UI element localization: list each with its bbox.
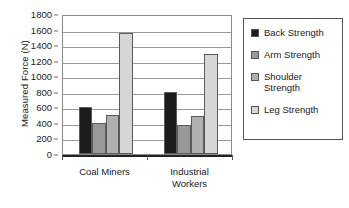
y-axis-tick-label: 1800 — [31, 10, 52, 20]
legend-item[interactable]: Back Strength — [251, 27, 342, 38]
legend-swatch-icon — [251, 73, 259, 81]
y-axis-tick — [54, 139, 58, 140]
legend-item-label: Back Strength — [264, 27, 324, 38]
y-axis-tick — [54, 92, 58, 93]
legend-item-label: Shoulder Strength — [264, 71, 302, 93]
y-axis-tick — [54, 77, 58, 78]
legend-item-label: Arm Strength — [264, 49, 320, 60]
legend-swatch-icon — [251, 106, 259, 114]
legend-item[interactable]: Shoulder Strength — [251, 71, 342, 93]
y-axis-tick-label: 800 — [36, 88, 52, 98]
bar — [79, 107, 93, 154]
y-axis-tick — [54, 108, 58, 109]
x-axis-tick-label: Coal Miners — [62, 166, 147, 178]
bars-layer — [63, 16, 231, 154]
x-axis-tick — [147, 155, 148, 160]
y-axis-tick-label: 1000 — [31, 72, 52, 82]
legend-item[interactable]: Leg Strength — [251, 104, 342, 115]
y-axis-tick — [54, 123, 58, 124]
bar — [106, 115, 120, 154]
y-axis-tick — [54, 15, 58, 16]
legend-item-label: Leg Strength — [264, 104, 318, 115]
y-axis-tick — [54, 30, 58, 31]
y-axis-tick — [54, 61, 58, 62]
y-axis-tick-label: 1200 — [31, 57, 52, 67]
legend-item[interactable]: Arm Strength — [251, 49, 342, 60]
bar — [92, 123, 106, 154]
bar — [119, 33, 133, 154]
bar — [177, 125, 191, 154]
y-axis-tick — [54, 155, 58, 156]
plot-area — [62, 15, 232, 155]
x-axis-tick-labels: Coal MinersIndustrial Workers — [62, 166, 232, 202]
chart-legend: Back StrengthArm StrengthShoulder Streng… — [243, 18, 343, 140]
y-axis-tick — [54, 46, 58, 47]
legend-swatch-icon — [251, 29, 259, 37]
x-axis-tick — [62, 155, 63, 160]
bar — [204, 54, 218, 154]
x-axis-tick-label: Industrial Workers — [147, 166, 232, 189]
y-axis-tick-label: 600 — [36, 104, 52, 114]
bar-chart: Measured Force (N) 020040060080010001200… — [0, 0, 349, 208]
y-axis-tick-labels: 020040060080010001200140016001800 — [0, 15, 58, 155]
y-axis-tick-label: 0 — [47, 150, 52, 160]
bar — [164, 92, 178, 154]
bar — [191, 116, 205, 154]
y-axis-tick-label: 200 — [36, 135, 52, 145]
x-axis-tick — [232, 155, 233, 160]
y-axis-tick-label: 400 — [36, 119, 52, 129]
y-axis-tick-label: 1400 — [31, 41, 52, 51]
legend-swatch-icon — [251, 51, 259, 59]
y-axis-tick-label: 1600 — [31, 26, 52, 36]
